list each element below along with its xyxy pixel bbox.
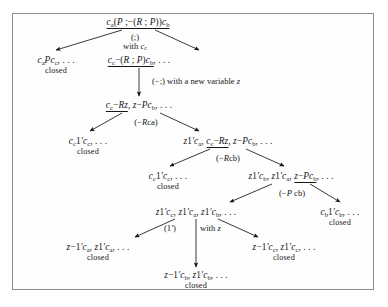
edge-label-one-prime-with-z: with z — [200, 224, 221, 233]
node-status-closed: closed — [67, 254, 130, 263]
tableau-node-n9: cb1′cb, . . . closed — [320, 208, 359, 228]
edge-label-line1: (−Rca) — [134, 117, 157, 127]
edge-label-line1: with z — [200, 223, 221, 233]
edge-label-line1: (−P cb) — [279, 188, 305, 198]
edge-label-line1: (−Rcb) — [216, 153, 240, 163]
tableau-node-n12: z−1′cb, z1′cb, . . . closed — [164, 271, 228, 291]
edge-label-line2: with cc — [123, 42, 147, 52]
edge-label-line1: (1′) — [164, 223, 176, 233]
tableau-node-n8: z1′cc, z1′ca, z1′cb, . . . — [156, 208, 237, 218]
tableau-node-n2: cc−(R ; P)cb, . . . — [108, 56, 171, 66]
node-formula: z1′ca, cc−Rz, z−Pcb, . . . — [184, 137, 273, 147]
tableau-node-n10: z−1′ca, z1′ca, . . . closed — [67, 243, 130, 263]
tableau-node-root: ca(P ;−(R ; P))cb — [107, 18, 170, 29]
node-status-closed: closed — [37, 67, 74, 76]
node-status-closed: closed — [253, 254, 316, 263]
node-status-closed: closed — [69, 148, 107, 157]
tableau-node-n7: z1′cb, z1′ca, z−Pcb, . . . — [248, 172, 333, 182]
node-formula: cc1′cc, . . . — [149, 172, 187, 182]
tableau-node-n4: cc1′cc, . . . closed — [69, 137, 107, 157]
tableau-node-n11: z−1′cc, z1′cc, . . . closed — [253, 243, 316, 263]
tableau-node-n6: cc1′cc, . . . closed — [149, 172, 187, 192]
node-formula: ca(P ;−(R ; P))cb — [107, 18, 170, 29]
edge-label-semicolon-rule: (;) with cc — [123, 33, 147, 53]
edge-label-neg-Pcb: (−P cb) — [279, 189, 305, 198]
node-formula: z−1′cc, z1′cc, . . . — [253, 243, 316, 253]
node-formula: caPcc, . . . — [37, 56, 74, 66]
node-formula: cc−(R ; P)cb, . . . — [108, 56, 171, 66]
edge-label-one-prime: (1′) — [164, 224, 176, 233]
node-formula: z1′cc, z1′ca, z1′cb, . . . — [156, 208, 237, 218]
node-formula: cb1′cb, . . . — [320, 208, 359, 218]
node-status-closed: closed — [320, 219, 359, 228]
edge-label-neg-semicolon-rule: (−;) with a new variable z — [152, 77, 240, 86]
tableau-node-n3: cc−Rz, z−Pcb, . . . — [106, 101, 172, 111]
edge-label-neg-Rcb: (−Rcb) — [216, 154, 240, 163]
node-formula: cc−Rz, z−Pcb, . . . — [106, 101, 172, 111]
tableau-node-n1: caPcc, . . . closed — [37, 56, 74, 76]
node-formula: z1′cb, z1′ca, z−Pcb, . . . — [248, 172, 333, 182]
node-formula: z−1′cb, z1′cb, . . . — [164, 271, 228, 281]
node-formula: cc1′cc, . . . — [69, 137, 107, 147]
edge-label-line1: (−;) with a new variable z — [152, 76, 240, 86]
node-status-closed: closed — [149, 183, 187, 192]
edge-label-neg-Rca: (−Rca) — [134, 118, 157, 127]
tableau-node-n5: z1′ca, cc−Rz, z−Pcb, . . . — [184, 137, 273, 147]
node-status-closed: closed — [164, 282, 228, 291]
node-formula: z−1′ca, z1′ca, . . . — [67, 243, 130, 253]
